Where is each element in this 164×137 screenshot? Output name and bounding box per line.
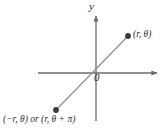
polar-coordinates-figure: y 0 (r, θ) (−r, θ) or (r, θ + π) bbox=[0, 0, 164, 137]
origin-label: 0 bbox=[94, 72, 100, 83]
point-b-label: (−r, θ) or (r, θ + π) bbox=[3, 115, 75, 125]
y-axis-label: y bbox=[89, 1, 94, 12]
point-b-marker bbox=[53, 107, 59, 113]
point-a-label: (r, θ) bbox=[133, 30, 151, 40]
point-a-marker bbox=[125, 33, 131, 39]
